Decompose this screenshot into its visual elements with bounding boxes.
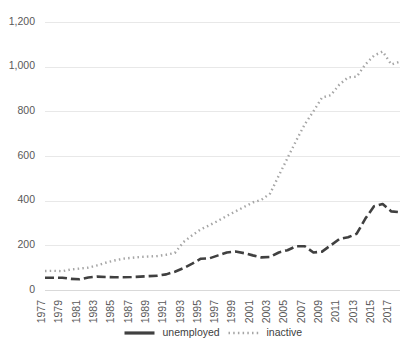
x-tick-label: 1979 (52, 300, 64, 324)
x-tick-label: 1987 (122, 300, 134, 324)
gridlines-group (45, 23, 400, 291)
x-tick-label: 2003 (260, 300, 272, 324)
y-tick-label: 1,000 (9, 59, 35, 71)
x-tick-label: 2015 (364, 300, 376, 324)
series-line-unemployed (45, 204, 400, 279)
x-axis-tick-labels: 1977197919811983198519871989199119931995… (35, 300, 393, 324)
chart-legend: unemployedinactive (125, 326, 303, 338)
y-tick-label: 400 (17, 193, 35, 205)
x-tick-label: 1985 (104, 300, 116, 324)
line-chart-figure: 02004006008001,0001,200 1977197919811983… (0, 0, 410, 352)
y-tick-label: 1,200 (9, 15, 35, 27)
x-tick-label: 2011 (329, 300, 341, 323)
x-tick-label: 2013 (347, 300, 359, 324)
x-tick-label: 1991 (156, 300, 168, 324)
x-tick-label: 1993 (174, 300, 186, 324)
y-tick-label: 800 (17, 104, 35, 116)
x-tick-label: 2005 (277, 300, 289, 324)
x-tick-label: 1995 (191, 300, 203, 324)
y-axis-tick-labels: 02004006008001,0001,200 (9, 15, 35, 295)
x-tick-label: 2009 (312, 300, 324, 324)
legend-label-inactive: inactive (267, 326, 303, 338)
x-tick-label: 1983 (87, 300, 99, 324)
x-tick-label: 1989 (139, 300, 151, 324)
x-tick-label: 2001 (243, 300, 255, 324)
x-tick-label: 1999 (225, 300, 237, 324)
y-tick-label: 0 (29, 283, 35, 295)
data-series-group (45, 51, 400, 279)
y-tick-label: 200 (17, 238, 35, 250)
chart-canvas: 02004006008001,0001,200 1977197919811983… (0, 0, 410, 352)
x-tick-label: 2017 (381, 300, 393, 324)
x-tick-label: 1981 (70, 300, 82, 324)
x-tick-label: 1977 (35, 300, 47, 324)
y-tick-label: 600 (17, 149, 35, 161)
x-tick-label: 2007 (295, 300, 307, 324)
x-tick-label: 1997 (208, 300, 220, 324)
legend-label-unemployed: unemployed (163, 326, 220, 338)
